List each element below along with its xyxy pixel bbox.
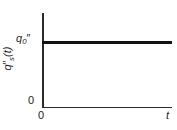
constant-flux-data-line [42, 41, 172, 44]
y-axis-label-subscript: s [7, 57, 16, 61]
y-axis-label-argument: (t) [1, 47, 13, 57]
chart-figure: q0″ 0 0 t q″s(t) [0, 0, 177, 130]
x-axis-label: t [166, 110, 169, 121]
y-tick-q0-prime: ″ [27, 32, 30, 44]
y-axis-label-base: q [1, 64, 13, 70]
x-axis-line [42, 107, 172, 109]
y-axis-label: q″s(t) [2, 35, 15, 83]
y-tick-label-zero: 0 [28, 95, 34, 106]
y-axis-line [42, 13, 44, 108]
y-axis-label-prime: ″ [1, 61, 13, 64]
x-tick-label-zero: 0 [38, 110, 44, 121]
y-tick-label-q0: q0″ [16, 33, 30, 46]
